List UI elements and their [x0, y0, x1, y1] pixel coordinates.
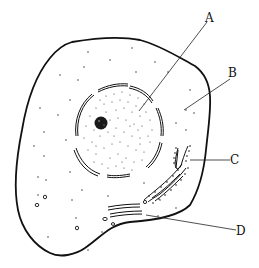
label-b: B	[228, 66, 237, 80]
leader-lines	[139, 22, 236, 230]
label-d: D	[236, 224, 246, 238]
vesicles	[35, 195, 114, 230]
label-a: A	[204, 11, 214, 25]
golgi-apparatus	[108, 204, 142, 217]
rough-endoplasmic-reticulum	[144, 146, 188, 202]
nucleoplasm	[83, 91, 152, 170]
cytoplasm-dots	[33, 47, 194, 250]
vesicle	[143, 200, 146, 203]
cell-diagram: A B C D	[0, 0, 259, 268]
leader-line-d	[146, 215, 236, 230]
nucleolus	[95, 117, 108, 130]
label-c: C	[230, 153, 239, 167]
nuclear-envelope	[74, 84, 163, 178]
